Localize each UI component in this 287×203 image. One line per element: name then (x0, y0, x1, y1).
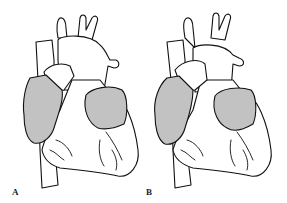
heart-diagram-b (143, 0, 287, 203)
panel-b: B (143, 0, 286, 203)
heart-diagram-a (0, 0, 143, 203)
panel-label-a: A (12, 187, 19, 197)
shaded-left-region (85, 87, 127, 129)
panel-a: A (0, 0, 143, 203)
panel-label-b: B (146, 187, 152, 197)
